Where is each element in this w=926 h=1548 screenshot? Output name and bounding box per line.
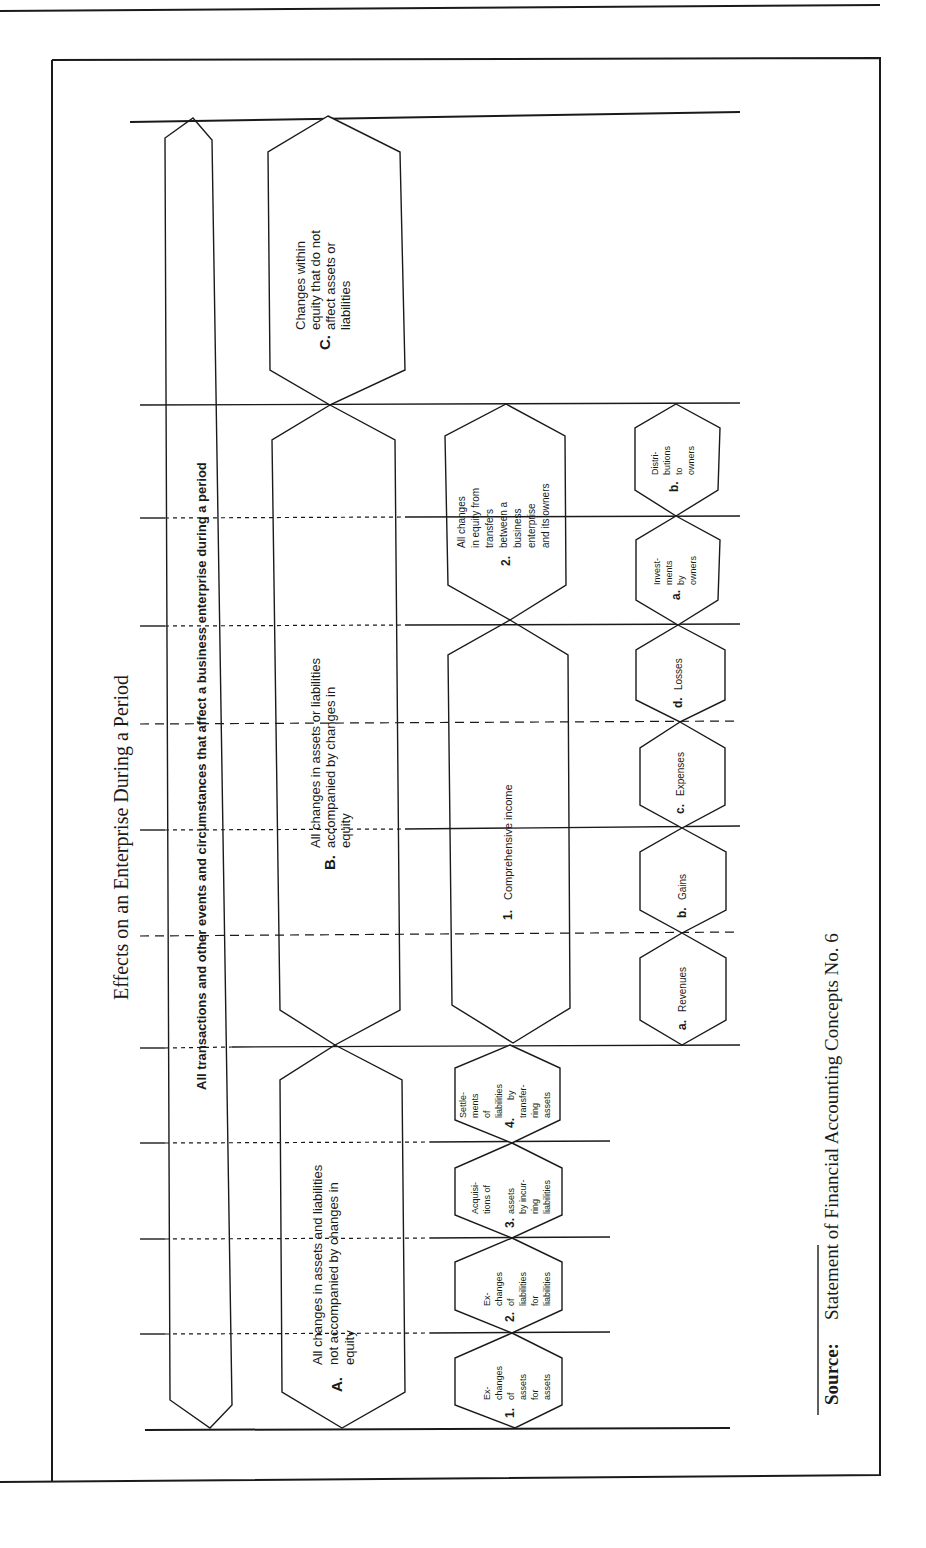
svg-text:liabilities: liabilities <box>338 280 353 330</box>
svg-text:owners: owners <box>688 555 698 585</box>
svg-text:Changes within: Changes within <box>293 241 308 330</box>
svg-text:butions: butions <box>662 445 672 475</box>
svg-text:affect assets or: affect assets or <box>323 241 338 330</box>
svg-text:business: business <box>512 509 523 548</box>
svg-text:1.: 1. <box>501 910 515 920</box>
svg-text:Distri-: Distri- <box>650 452 660 476</box>
svg-text:Revenues: Revenues <box>677 967 688 1012</box>
svg-text:Expenses: Expenses <box>675 752 686 796</box>
svg-text:Acquisi-: Acquisi- <box>470 1182 480 1214</box>
svg-text:1.: 1. <box>503 1408 517 1418</box>
svg-text:by incur-: by incur- <box>518 1179 528 1214</box>
svg-text:ments: ments <box>470 1093 480 1118</box>
svg-text:to: to <box>674 467 684 475</box>
b2-subcategories: b. Distri- butions to owners a. Invest- … <box>635 404 720 625</box>
svg-text:for: for <box>530 1295 540 1306</box>
svg-text:between a: between a <box>498 501 509 548</box>
svg-text:of: of <box>482 1110 492 1118</box>
svg-text:ring: ring <box>530 1103 540 1118</box>
svg-text:Gains: Gains <box>677 874 688 900</box>
svg-text:changes: changes <box>494 1271 504 1306</box>
svg-text:All changes: All changes <box>456 496 467 548</box>
svg-text:transfers: transfers <box>484 509 495 548</box>
svg-text:equity: equity <box>342 1330 357 1365</box>
svg-text:of: of <box>506 1392 516 1400</box>
document-page: All transactions and other events and ci… <box>0 0 926 1548</box>
svg-text:c.: c. <box>673 804 687 814</box>
outer-band-all-transactions: All transactions and other events and ci… <box>165 118 232 1428</box>
svg-text:changes: changes <box>494 1365 504 1400</box>
svg-text:assets: assets <box>542 1373 552 1400</box>
svg-text:Losses: Losses <box>673 658 684 690</box>
svg-text:ments: ments <box>664 560 674 585</box>
svg-text:All changes in assets or liabi: All changes in assets or liabilities <box>308 657 323 848</box>
svg-text:3.: 3. <box>503 1218 517 1228</box>
figure-frame <box>0 58 880 1482</box>
svg-text:2.: 2. <box>503 1312 517 1322</box>
category-a-hexagon: A. All changes in assets and liabilities… <box>280 1045 405 1428</box>
svg-text:by: by <box>506 1090 516 1100</box>
svg-text:tions of: tions of <box>482 1184 492 1214</box>
svg-text:assets: assets <box>542 1091 552 1118</box>
svg-text:Ex-: Ex- <box>482 1386 492 1400</box>
svg-text:ring: ring <box>530 1199 540 1214</box>
svg-text:Ex-: Ex- <box>482 1292 492 1306</box>
svg-text:liabilities: liabilities <box>518 1271 528 1306</box>
svg-text:by: by <box>676 575 686 585</box>
svg-text:and its owners: and its owners <box>540 484 551 548</box>
diagram-top-boundary <box>130 112 740 122</box>
svg-text:b.: b. <box>675 907 689 918</box>
svg-text:assets: assets <box>518 1373 528 1400</box>
a-subcategories: 4. Settle- ments of liabilities by trans… <box>455 1045 562 1428</box>
svg-text:liabilities: liabilities <box>542 1179 552 1214</box>
category-a-marker: A. <box>328 1377 345 1392</box>
svg-text:enterprise: enterprise <box>526 503 537 548</box>
svg-text:not accompanied by changes in: not accompanied by changes in <box>326 1182 341 1365</box>
page-top-rule <box>0 5 880 11</box>
svg-text:owners: owners <box>686 445 696 475</box>
b2-owner-transfers-hexagon: 2. All changes in equity from transfers … <box>445 404 566 620</box>
svg-text:of: of <box>506 1298 516 1306</box>
svg-text:liabilities: liabilities <box>542 1271 552 1306</box>
b1-comprehensive-income-hexagon: 1. Comprehensive income <box>448 620 570 1043</box>
category-c-marker: C. <box>316 335 333 350</box>
svg-text:a.: a. <box>669 590 683 600</box>
b1-subcategories: d. Losses c. Expenses b. Gains a. Revenu… <box>636 625 726 1045</box>
svg-text:2.: 2. <box>499 556 513 566</box>
svg-text:a.: a. <box>675 1020 689 1030</box>
outer-band-label: All transactions and other events and ci… <box>194 462 209 1090</box>
svg-text:Settle-: Settle- <box>458 1092 468 1118</box>
svg-text:liabilities: liabilities <box>494 1083 504 1118</box>
category-b-hexagon: B. All changes in assets or liabilities … <box>272 405 400 1045</box>
category-c-hexagon: C. Changes within equity that do not aff… <box>268 116 405 405</box>
svg-text:Comprehensive income: Comprehensive income <box>502 784 514 900</box>
figure-title: Effects on an Enterprise During a Period <box>110 675 133 1000</box>
svg-text:for: for <box>530 1389 540 1400</box>
svg-text:Invest-: Invest- <box>652 558 662 585</box>
diagram-bottom-boundary <box>145 1428 730 1430</box>
svg-text:equity that do not: equity that do not <box>308 230 323 330</box>
svg-text:4.: 4. <box>503 1118 517 1128</box>
svg-text:equity: equity <box>338 813 353 848</box>
svg-text:d.: d. <box>671 697 685 708</box>
svg-text:accompanied by changes in: accompanied by changes in <box>323 687 338 848</box>
source-label: Source: <box>821 1343 842 1405</box>
svg-text:b.: b. <box>667 481 681 492</box>
svg-text:in equity from: in equity from <box>470 488 481 548</box>
svg-text:All changes in assets and liab: All changes in assets and liabilities <box>310 1164 325 1365</box>
source-text: Statement of Financial Accounting Concep… <box>821 933 842 1320</box>
svg-text:assets: assets <box>506 1187 516 1214</box>
svg-text:transfer-: transfer- <box>518 1084 528 1118</box>
category-b-marker: B. <box>321 855 338 870</box>
